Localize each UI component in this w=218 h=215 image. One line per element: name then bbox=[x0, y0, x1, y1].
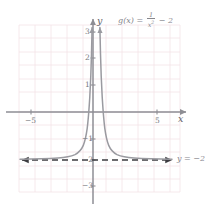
denominator-exponent: 2 bbox=[151, 20, 154, 25]
y-tick-label-2: 2 bbox=[85, 54, 90, 62]
y-tick-label-neg1: −1 bbox=[82, 135, 93, 143]
fraction-denominator: x2 bbox=[147, 19, 156, 29]
x-tick-label-5: 5 bbox=[155, 117, 160, 125]
y-tick-label-neg3: −3 bbox=[82, 182, 93, 190]
curve-right-branch bbox=[100, 28, 172, 160]
y-tick-label-3: 3 bbox=[85, 28, 90, 36]
function-argument: (x) bbox=[123, 16, 134, 25]
x-axis-label: x bbox=[178, 114, 183, 124]
y-tick-label-neg2: −2 bbox=[82, 156, 93, 164]
constant-term: − 2 bbox=[159, 16, 173, 25]
fraction-numerator: 1 bbox=[147, 12, 156, 19]
function-equation-label: g(x) = 1 x2 − 2 bbox=[118, 12, 173, 29]
asymptote-equation-label: y = −2 bbox=[177, 155, 205, 163]
y-tick-label-1: 1 bbox=[85, 81, 90, 89]
grid-lines bbox=[19, 25, 180, 192]
y-axis-label: y bbox=[97, 16, 102, 26]
function-graph-figure: −5 5 3 2 1 −1 −2 −3 x y g(x) = 1 x2 − 2 … bbox=[0, 0, 218, 215]
x-tick-label-neg5: −5 bbox=[25, 117, 36, 125]
equals-sign: = bbox=[136, 16, 143, 25]
fraction-one-over-x-squared: 1 x2 bbox=[147, 12, 156, 29]
plot-canvas bbox=[0, 0, 218, 215]
